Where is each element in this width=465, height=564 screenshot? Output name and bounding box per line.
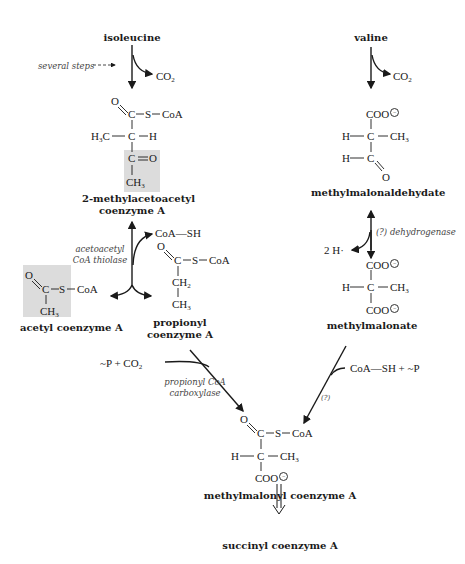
atom: O (25, 269, 33, 281)
atom: COO− (255, 472, 288, 484)
atom: O (149, 152, 157, 164)
two-h-product: 2 H· (324, 244, 344, 256)
co2-left: CO2 (156, 70, 175, 82)
atom: C (128, 108, 135, 120)
atom: CH2 (172, 276, 191, 288)
atom: S (192, 254, 198, 266)
atom: CH3 (390, 281, 409, 293)
atom: H (149, 130, 157, 142)
atom: H (342, 281, 350, 293)
atom: H (342, 130, 350, 142)
atom: S (59, 283, 65, 295)
atom: O (382, 171, 390, 183)
propionyl-label-1: propionyl (150, 317, 210, 329)
atom: C (42, 283, 49, 295)
methylmalonate-label: methylmalonate (322, 320, 422, 332)
atom: O (111, 95, 119, 107)
atom: C (367, 152, 374, 164)
atom: CH3 (172, 298, 191, 310)
valine-label: valine (346, 32, 396, 44)
several-steps-annotation: several steps (38, 60, 94, 72)
atom: CH3 (126, 176, 145, 188)
atom: COO− (366, 259, 399, 271)
atom: CoA (292, 427, 313, 439)
coa-sh-product: CoA—SH (155, 227, 201, 239)
atom: CH3 (280, 450, 299, 462)
thiolase-annotation-2: CoA thiolase (70, 254, 130, 266)
atom: C (128, 152, 135, 164)
atom: C (174, 254, 181, 266)
p-co2-reactant: ~P + CO2 (100, 357, 142, 369)
acetyl-coa-label: acetyl coenzyme A (20, 322, 123, 334)
atom: C (257, 427, 264, 439)
methylmalonaldehydate-label: methylmalonaldehydate (311, 187, 433, 199)
atom: S (275, 427, 281, 439)
atom: O (240, 413, 248, 425)
atom: COO− (366, 304, 399, 316)
atom: COO− (366, 108, 399, 120)
atom: CoA (77, 283, 98, 295)
atom: C (367, 281, 374, 293)
propionyl-label-2: coenzyme A (145, 329, 215, 341)
atom: H3C (91, 130, 110, 142)
coash-p-reactant: CoA—SH + ~P (350, 362, 420, 374)
unknown-enzyme-annotation: (?) (321, 392, 330, 404)
methylacetoacetyl-label-1: 2-methylacetoacetyl (82, 193, 182, 205)
atom: C (128, 130, 135, 142)
methylmalonyl-coa-label: methylmalonyl coenzyme A (200, 490, 360, 502)
atom: CH3 (40, 305, 59, 317)
isoleucine-label: isoleucine (102, 32, 162, 44)
atom: CoA (209, 254, 230, 266)
atom: C (257, 450, 264, 462)
succinyl-coa-label: succinyl coenzyme A (210, 540, 350, 552)
atom: O (157, 240, 165, 252)
atom: CH3 (390, 130, 409, 142)
methylacetoacetyl-label-2: coenzyme A (82, 205, 182, 217)
atom: H (231, 450, 239, 462)
pathway-diagram: isoleucine valine several steps CO2 CO2 … (0, 0, 465, 564)
atom: C (367, 130, 374, 142)
atom: H (342, 152, 350, 164)
co2-right: CO2 (393, 70, 412, 82)
atom: CoA (162, 108, 183, 120)
atom: S (145, 108, 151, 120)
carboxylase-annotation-2: carboxylase (160, 387, 230, 399)
dehydrogenase-annotation: (?) dehydrogenase (376, 226, 456, 238)
